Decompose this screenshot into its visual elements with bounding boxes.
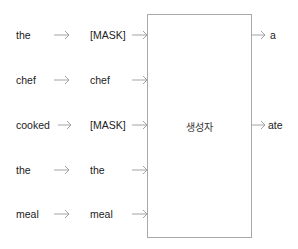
- masked-token-4: meal: [90, 208, 113, 220]
- input-token-0: the: [16, 29, 31, 41]
- arrow-right-icon: [132, 209, 147, 219]
- arrow-right-icon: [132, 120, 147, 130]
- arrow-right-icon: [54, 165, 70, 175]
- masked-token-1: chef: [90, 74, 110, 86]
- output-token-2: ate: [268, 119, 283, 131]
- arrow-right-icon: [54, 30, 70, 40]
- arrow-right-icon: [132, 30, 147, 40]
- generator-label: 생성자: [148, 119, 251, 134]
- masked-token-3: the: [90, 164, 105, 176]
- arrow-right-icon: [252, 120, 266, 130]
- input-token-4: meal: [16, 208, 39, 220]
- arrow-right-icon: [54, 75, 70, 85]
- input-token-3: the: [16, 164, 31, 176]
- input-token-2: cooked: [16, 119, 50, 131]
- arrow-right-icon: [132, 75, 147, 85]
- generator-box: 생성자: [147, 14, 252, 238]
- arrow-right-icon: [58, 120, 72, 130]
- masked-token-2: [MASK]: [90, 119, 126, 131]
- arrow-right-icon: [252, 30, 266, 40]
- masked-token-0: [MASK]: [90, 29, 126, 41]
- arrow-right-icon: [132, 165, 147, 175]
- output-token-0: a: [270, 29, 276, 41]
- input-token-1: chef: [16, 74, 36, 86]
- arrow-right-icon: [54, 209, 70, 219]
